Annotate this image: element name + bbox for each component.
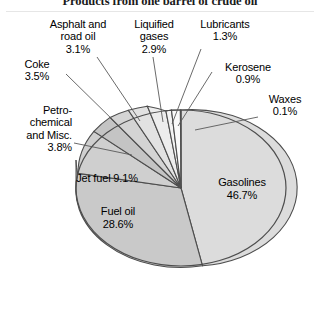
label-liquified-gases: Liquified gases 2.9% (122, 18, 186, 55)
leader-line-asphalt (97, 57, 140, 121)
pie-chart-figure: Products from one barrel of crude oil (0, 0, 320, 313)
label-asphalt-and-road-oil: Asphalt and road oil 3.1% (36, 18, 120, 55)
label-lubricants: Lubricants 1.3% (190, 18, 260, 43)
label-jet-fuel: Jet fuel 9.1% (52, 172, 162, 185)
leader-line-coke (66, 74, 118, 125)
label-kerosene: Kerosene 0.9% (214, 61, 282, 86)
label-coke: Coke 3.5% (10, 58, 64, 83)
label-waxes: Waxes 0.1% (258, 93, 312, 118)
label-gasolines: Gasolines 46.7% (196, 176, 288, 201)
label-fuel-oil: Fuel oil 28.6% (76, 205, 160, 230)
label-petro-chemical-and-misc: Petro- chemical and Misc. 3.8% (0, 104, 72, 154)
